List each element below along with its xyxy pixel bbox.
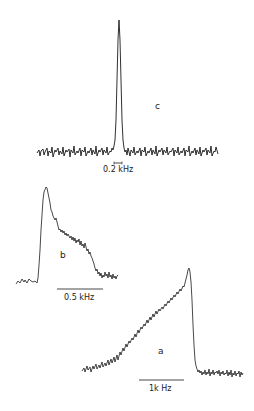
trace-a [82,268,243,377]
trace-b [16,187,118,284]
spectra-plot [0,0,254,411]
scale-label-c: 0.2 kHz [103,166,133,174]
panel-label-b: b [60,251,66,260]
scale-label-b: 0.5 kHz [64,294,94,302]
figure: c 0.2 kHz b 0.5 kHz a 1k Hz [0,0,254,411]
panel-label-a: a [158,347,164,356]
panel-label-c: c [155,102,160,111]
scale-label-a: 1k Hz [149,385,171,393]
trace-c [37,20,218,157]
